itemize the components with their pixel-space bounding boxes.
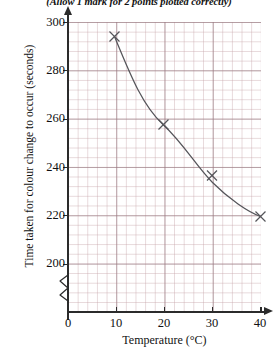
x-tick-label-20: 20 [149, 317, 179, 330]
x-tick-mark [116, 307, 117, 313]
marking-note: (Allow 1 mark for 2 points plotted corre… [0, 0, 278, 7]
y-tick-label-300: 300 [46, 16, 65, 29]
x-tick-mark [260, 307, 261, 313]
y-axis-title: Time taken for colour change to occur (s… [23, 31, 35, 281]
y-tick-label-240: 240 [46, 161, 65, 174]
x-tick-label-30: 30 [197, 317, 227, 330]
x-axis-arrow-icon [264, 307, 273, 315]
x-axis-title: Temperature (°C) [68, 333, 261, 348]
x-axis-line [68, 311, 267, 312]
y-tick-label-220: 220 [46, 209, 65, 222]
x-tick-mark [212, 307, 213, 313]
major-gridlines [68, 22, 261, 312]
x-tick-label-0: 0 [53, 317, 83, 330]
x-tick-label-10: 10 [101, 317, 131, 330]
y-tick-label-260: 260 [46, 112, 65, 125]
plot-area [68, 22, 261, 312]
y-axis-arrow-icon [64, 6, 72, 15]
y-tick-label-280: 280 [46, 64, 65, 77]
x-tick-label-40: 40 [245, 317, 275, 330]
y-tick-label-200: 200 [46, 257, 65, 270]
chart-page: (Allow 1 mark for 2 points plotted corre… [0, 0, 278, 352]
x-tick-mark [164, 307, 165, 313]
x-tick-mark [67, 307, 68, 313]
